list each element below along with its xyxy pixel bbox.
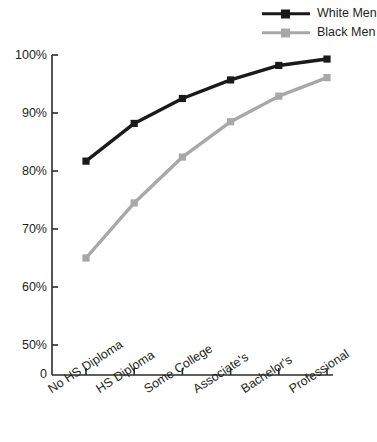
data-point-marker xyxy=(227,76,234,83)
data-point-marker xyxy=(82,158,89,165)
data-point-marker xyxy=(82,254,89,261)
axis-lines xyxy=(52,55,333,375)
data-point-marker xyxy=(323,55,330,62)
data-point-marker xyxy=(323,74,330,81)
y-axis-tick-label: 70% xyxy=(22,223,47,235)
y-axis-tick-label: 100% xyxy=(15,49,47,61)
y-axis-zero-label: 0 xyxy=(40,368,47,380)
series-line-black-men xyxy=(86,78,327,258)
data-point-marker xyxy=(275,62,282,69)
data-point-marker xyxy=(179,153,186,160)
series-lines xyxy=(82,55,330,261)
y-axis-tick-label: 80% xyxy=(22,165,47,177)
y-axis-tick-label: 90% xyxy=(22,107,47,119)
data-point-marker xyxy=(227,118,234,125)
data-point-marker xyxy=(131,199,138,206)
y-axis-tick-label: 50% xyxy=(22,339,47,351)
y-axis-tick-label: 60% xyxy=(22,281,47,293)
series-line-white-men xyxy=(86,59,327,161)
data-point-marker xyxy=(131,120,138,127)
data-point-marker xyxy=(275,93,282,100)
data-point-marker xyxy=(179,95,186,102)
